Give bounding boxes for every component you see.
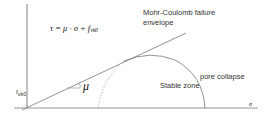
envelope-label-line2: envelope — [143, 18, 215, 28]
x-axis-label: σ — [249, 100, 252, 109]
pore-collapse-label: pore collapse — [200, 72, 245, 81]
mohr-coulomb-diagram — [0, 0, 266, 116]
formula-subscript: vk0 — [90, 27, 98, 33]
failure-envelope-line — [22, 33, 186, 110]
envelope-label: Mohr-Coulomb failure envelope — [143, 8, 215, 28]
stable-zone-label: Stable zone — [160, 81, 200, 90]
cohesion-label: fvk0 — [16, 88, 26, 99]
friction-coefficient-label: μ — [83, 82, 89, 91]
cohesion-subscript: vk0 — [18, 91, 27, 97]
mu-angle-arc — [79, 83, 80, 88]
envelope-formula: τ = μ · σ + fvk0 — [50, 24, 98, 35]
envelope-label-line1: Mohr-Coulomb failure — [143, 8, 215, 18]
formula-main: τ = μ · σ + f — [50, 23, 90, 33]
